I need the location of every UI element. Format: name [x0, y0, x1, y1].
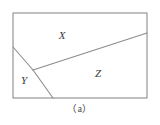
- figure-container: X Y Z （a）: [0, 0, 160, 125]
- figure-caption: （a）: [0, 105, 160, 115]
- outer-rectangle-frame: [13, 13, 147, 98]
- region-label-y: Y: [21, 75, 27, 86]
- region-label-x: X: [59, 30, 66, 41]
- region-label-z: Z: [95, 68, 101, 79]
